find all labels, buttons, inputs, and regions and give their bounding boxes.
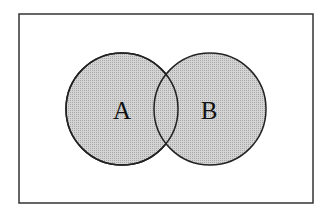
- set-a-label: A: [113, 97, 131, 124]
- set-b-label: B: [201, 97, 218, 124]
- venn-diagram: A B: [0, 0, 333, 219]
